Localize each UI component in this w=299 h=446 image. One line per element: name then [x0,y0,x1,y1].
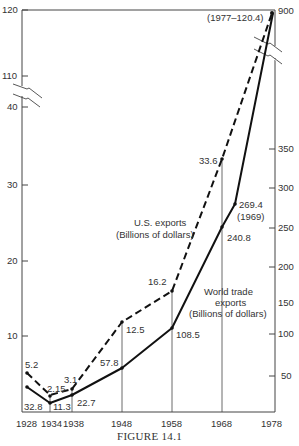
us-series-title-line1: U.S. exports [134,217,187,228]
right-tick-label-100: 100 [278,328,294,339]
x-tick-label-1934: 1934 [41,418,62,429]
world-series-title-line3: (Billions of dollars) [189,308,267,319]
world-label-1928: 32.8 [24,401,43,412]
world-label-1969-year: (1969) [237,211,264,222]
x-tick-label-1948: 1948 [111,418,132,429]
world-label-1968: 240.8 [227,232,251,243]
world-series-title-line2: exports [215,297,246,308]
left-tick-label-10: 10 [7,330,18,341]
x-tick-label-1968: 1968 [211,418,232,429]
us-label-1968: 33.6 [199,155,218,166]
us-label-1938: 3.1 [64,374,77,385]
world-label-1948: 57.8 [100,357,119,368]
left-axis-ticks [22,10,28,336]
world-series-title-line1: World trade [204,286,253,297]
right-tick-label-150: 150 [278,297,294,308]
world-label-1938: 22.7 [77,397,96,408]
x-tick-label-1978: 1978 [261,418,282,429]
world-trade-line [27,13,273,403]
world-label-1958: 108.5 [176,329,200,340]
right-tick-label-200: 200 [278,261,294,272]
right-tick-label-300: 300 [278,182,294,193]
us-label-1958: 16.2 [148,276,167,287]
right-tick-label-900: 900 [278,5,294,16]
left-tick-label-40: 40 [7,101,18,112]
chart: 120 110 40 30 20 10 900 350 300 250 200 … [0,0,299,446]
world-label-1969-value: 269.4 [239,199,263,210]
us-label-1928: 5.2 [25,359,38,370]
left-tick-label-110: 110 [2,70,17,81]
x-tick-label-1928: 1928 [16,418,37,429]
x-tick-label-1938: 1938 [63,418,84,429]
figure-caption: FIGURE 14.1 [0,430,299,442]
right-axis-ticks [269,149,275,376]
us-series-title-line2: (Billions of dollars) [116,229,194,240]
right-tick-label-350: 350 [278,143,294,154]
us-label-1977: (1977–120.4) [207,12,264,23]
right-tick-label-50: 50 [281,370,292,381]
left-tick-label-20: 20 [7,255,18,266]
us-label-1934: 2.15 [47,383,66,394]
left-tick-label-120: 120 [2,4,18,15]
left-tick-label-30: 30 [7,179,18,190]
x-tick-label-1958: 1958 [161,418,182,429]
world-label-1934: 11.3 [53,401,71,412]
us-label-1948: 12.5 [126,324,145,335]
right-tick-label-250: 250 [278,222,294,233]
